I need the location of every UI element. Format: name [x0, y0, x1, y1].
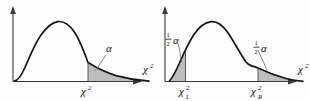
half-alpha-left-leader-line [179, 44, 182, 62]
x-axis-label: χ 2 [297, 62, 309, 75]
x-axis-label-chi: χ [142, 63, 149, 75]
y-axis-arrow-icon [10, 6, 16, 14]
half-alpha-left-label: 1 2 α [166, 31, 180, 47]
chi-square-density-curve [170, 22, 304, 82]
critical-value-chi-squared: χ 2 [80, 84, 92, 97]
y-axis-arrow-icon [162, 6, 168, 14]
half-alpha-left-numerator: 1 [167, 31, 170, 38]
upper-critical-value: χ 2 R [250, 84, 262, 100]
half-alpha-right-denominator: 2 [255, 48, 258, 55]
lower-critical-value-chi: χ [178, 85, 185, 97]
lower-critical-value-subscript: L [185, 93, 190, 100]
right-tail-shaded-area [88, 63, 148, 82]
critical-value-chi: χ [80, 85, 87, 97]
upper-critical-value-subscript: R [257, 93, 262, 100]
chi-square-density-curve [15, 21, 150, 81]
upper-critical-value-chi: χ [250, 85, 257, 97]
x-axis-label-exponent: 2 [150, 62, 154, 70]
alpha-label: α [106, 42, 112, 54]
half-alpha-right-label: 1 2 α [254, 39, 268, 55]
x-axis-label: χ 2 [142, 62, 154, 75]
right-tail-shaded-area [258, 68, 302, 82]
half-alpha-left-symbol: α [173, 34, 179, 46]
two-tailed-chi-square-panel: 1 2 α 1 2 α χ 2 χ 2 L [162, 6, 309, 100]
half-alpha-left-denominator: 2 [167, 40, 170, 47]
critical-value-exponent: 2 [88, 84, 92, 92]
right-tailed-chi-square-panel: α χ 2 χ 2 [10, 6, 154, 97]
x-axis-label-chi: χ [297, 63, 304, 75]
x-axis-label-exponent: 2 [305, 62, 309, 70]
half-alpha-right-numerator: 1 [255, 39, 258, 46]
half-alpha-right-symbol: α [261, 42, 267, 54]
lower-critical-value: χ 2 L [178, 84, 190, 100]
upper-critical-value-exponent: 2 [258, 84, 262, 92]
chi-square-figure: α χ 2 χ 2 [0, 0, 310, 101]
lower-critical-value-exponent: 2 [186, 84, 190, 92]
